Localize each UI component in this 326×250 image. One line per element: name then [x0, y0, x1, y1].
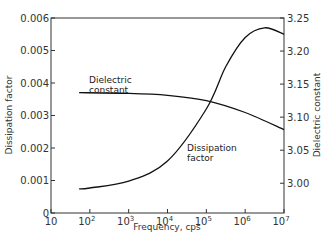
- y2-tick-label: 3.20: [287, 46, 309, 57]
- y2-axis-title: Dielectric constant: [312, 72, 322, 157]
- y2-tick-label: 3.05: [287, 145, 309, 156]
- chart: 10102103104105106107 00.0010.0020.0030.0…: [0, 0, 326, 250]
- y-axis-ticks: 00.0010.0020.0030.0040.0050.006: [20, 13, 55, 219]
- y-tick-label: 0.001: [20, 175, 49, 186]
- annotation-dissipation-line2: factor: [187, 153, 214, 163]
- y-axis-title: Dissipation factor: [4, 75, 14, 154]
- x-tick-label: 103: [117, 215, 134, 227]
- annotation-dissipation-line1: Dissipation: [187, 143, 237, 153]
- y2-tick-label: 3.15: [287, 79, 309, 90]
- annotation-dielectric-line1: Dielectric: [89, 75, 132, 85]
- dissipation-factor-curve: [79, 28, 284, 189]
- x-tick-label: 102: [78, 215, 95, 227]
- y2-tick-label: 3.10: [287, 112, 309, 123]
- y-tick-label: 0.004: [20, 78, 49, 89]
- plot-frame: [51, 18, 284, 213]
- annotation-dielectric-line2: constant: [89, 85, 129, 95]
- y-tick-label: 0.003: [20, 110, 49, 121]
- y2-tick-label: 3.00: [287, 178, 309, 189]
- y-tick-label: 0.006: [20, 13, 49, 24]
- y-tick-label: 0.005: [20, 45, 49, 56]
- y2-tick-label: 3.25: [287, 13, 309, 24]
- x-axis-title: Frequency, cps: [133, 222, 201, 232]
- y-tick-label: 0: [43, 208, 49, 219]
- y-tick-label: 0.002: [20, 143, 49, 154]
- x-tick-label: 106: [234, 215, 252, 227]
- x-tick-label: 107: [272, 215, 289, 227]
- dielectric-constant-curve: [79, 93, 284, 130]
